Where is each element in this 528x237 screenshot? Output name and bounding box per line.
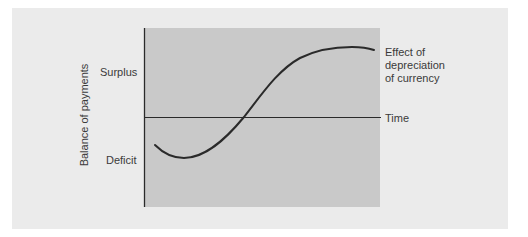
y-axis-label: Balance of payments bbox=[78, 64, 90, 167]
surplus-label: Surplus bbox=[100, 66, 137, 79]
curve-annotation-line-2: depreciation bbox=[385, 59, 445, 72]
curve-annotation: Effect of depreciation of currency bbox=[385, 46, 445, 85]
curve-annotation-line-1: Effect of bbox=[385, 46, 445, 59]
deficit-label: Deficit bbox=[106, 154, 137, 167]
time-axis-label: Time bbox=[385, 112, 409, 125]
curve-annotation-line-3: of currency bbox=[385, 72, 445, 85]
j-curve-line bbox=[155, 47, 374, 158]
